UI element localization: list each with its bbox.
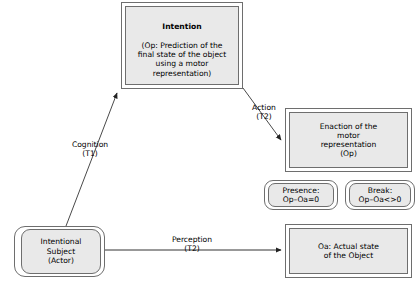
node-enaction-inner: Enaction of the motor representation (Op… xyxy=(289,112,408,168)
node-intention-body: (Op: Prediction of the final state of th… xyxy=(138,41,226,78)
edge-label-perception: Perception (T2) xyxy=(160,235,224,254)
edge-label-cognition: Cognition (T1) xyxy=(60,140,120,159)
node-object-state-inner: Oa: Actual state of the Object xyxy=(289,228,408,274)
node-break-text: Break: Op–Oa<>0 xyxy=(359,186,402,205)
node-presence: Presence: Op–Oa=0 xyxy=(264,180,338,210)
node-intentional-subject-text: Intentional Subject (Actor) xyxy=(41,237,82,265)
node-presence-text: Presence: Op–Oa=0 xyxy=(283,186,320,205)
node-intention: Intention (Op: Prediction of the final s… xyxy=(121,2,243,89)
edge-label-action: Action (T2) xyxy=(243,103,285,122)
node-enaction-text: Enaction of the motor representation (Op… xyxy=(317,122,381,159)
diagram-canvas: Intention (Op: Prediction of the final s… xyxy=(0,0,418,289)
node-enaction: Enaction of the motor representation (Op… xyxy=(285,108,412,172)
node-intention-heading: Intention xyxy=(162,22,201,31)
node-intention-text: Intention (Op: Prediction of the final s… xyxy=(135,13,229,78)
node-break: Break: Op–Oa<>0 xyxy=(345,180,415,210)
edge-cognition-line xyxy=(66,93,117,226)
node-break-inner: Break: Op–Oa<>0 xyxy=(349,183,411,207)
node-object-state: Oa: Actual state of the Object xyxy=(285,224,412,278)
node-intention-inner: Intention (Op: Prediction of the final s… xyxy=(125,6,239,85)
node-intentional-subject: Intentional Subject (Actor) xyxy=(14,226,105,277)
node-intentional-subject-inner: Intentional Subject (Actor) xyxy=(21,229,101,274)
node-presence-inner: Presence: Op–Oa=0 xyxy=(268,183,334,207)
node-object-state-text: Oa: Actual state of the Object xyxy=(315,242,382,261)
